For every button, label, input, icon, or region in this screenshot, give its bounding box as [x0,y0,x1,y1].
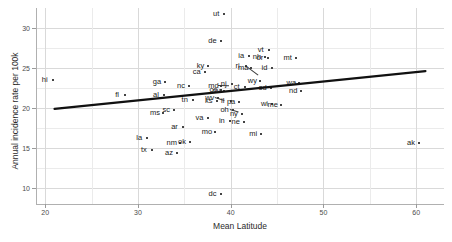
x-tick-mark [45,204,46,208]
gridline-vertical-minor [370,8,371,204]
data-point [260,133,262,135]
point-label: de [208,35,216,44]
data-point [182,126,184,128]
gridline-vertical [138,8,139,204]
point-label: in [219,115,225,124]
x-tick-label: 50 [320,209,328,216]
gridline-vertical [45,8,46,204]
point-label: pa [227,97,235,106]
data-point [268,49,270,51]
data-point [231,83,233,85]
point-label: ak [407,138,415,147]
x-axis-line [36,204,444,205]
point-label: dc [209,188,217,197]
gridline-vertical [416,8,417,204]
data-point [192,99,194,101]
data-point [241,113,243,115]
point-label: mo [202,127,212,136]
data-point [164,81,166,83]
data-point [264,56,266,58]
gridline-horizontal [36,28,444,29]
data-point [207,65,209,67]
gridline-vertical [323,8,324,204]
x-axis-title: Mean Latitude [36,221,444,231]
data-point [300,90,302,92]
gridline-vertical-minor [92,8,93,204]
gridline-horizontal [36,148,444,149]
data-point [188,85,190,87]
data-point [124,94,126,96]
point-label: wy [248,75,257,84]
point-label: tx [141,145,147,154]
point-label: nj [221,79,227,88]
point-label: ia [238,51,244,60]
data-point [220,40,222,42]
scatter-chart: hifllatxmsalgascaznmncaroktncavakymomdwv… [0,0,452,242]
data-point [220,89,222,91]
data-point [248,55,250,57]
data-point [267,57,269,59]
point-label: id [262,63,268,72]
x-tick-mark [138,204,139,208]
point-label: az [165,147,173,156]
gridline-horizontal-minor [36,88,444,89]
data-point [173,109,175,111]
point-label: fl [115,90,119,99]
point-label: ct [234,82,240,91]
data-point [259,80,261,82]
y-axis-title: Annual incidence rate per 100k [10,11,20,211]
data-point [238,101,240,103]
gridline-horizontal-minor [36,48,444,49]
plot-area: hifllatxmsalgascaznmncaroktncavakymomdwv… [36,8,444,204]
point-label: sd [259,83,267,92]
data-point [214,131,216,133]
data-point [146,137,148,139]
gridline-vertical [231,8,232,204]
point-label: mi [249,129,257,138]
point-label: hi [42,75,48,84]
gridline-horizontal [36,188,444,189]
gridline-vertical-minor [184,8,185,204]
point-label: vt [258,44,264,53]
point-label: nc [177,80,185,89]
y-tick-mark [32,68,36,69]
data-point [298,82,300,84]
data-point [220,193,222,195]
gridline-horizontal [36,108,444,109]
data-point [243,121,245,123]
data-point [151,149,153,151]
data-point [244,86,246,88]
y-axis-line [36,8,37,204]
label-leader-line [218,85,229,86]
y-tick-mark [32,108,36,109]
data-point [271,67,273,69]
x-tick-mark [323,204,324,208]
point-label: ar [171,122,178,131]
point-label: mt [283,53,291,62]
data-point [163,94,165,96]
point-label: ks [205,95,213,104]
x-tick-mark [231,204,232,208]
x-tick-label: 40 [227,209,235,216]
data-point [204,71,206,73]
data-point [223,90,225,92]
y-tick-mark [32,28,36,29]
y-tick-mark [32,148,36,149]
point-label: nm [167,138,177,147]
point-label: nv [212,86,220,95]
data-point [207,117,209,119]
data-point [176,152,178,154]
point-label: al [153,90,159,99]
point-label: or [256,53,263,62]
gridline-horizontal-minor [36,168,444,169]
point-label: me [268,99,278,108]
point-label: ms [150,107,160,116]
data-point [295,57,297,59]
data-point [280,104,282,106]
point-label: ok [178,137,186,146]
x-tick-mark [416,204,417,208]
point-label: ne [232,116,240,125]
point-label: nd [289,86,297,95]
point-label: ky [197,60,205,69]
point-label: va [196,112,204,121]
